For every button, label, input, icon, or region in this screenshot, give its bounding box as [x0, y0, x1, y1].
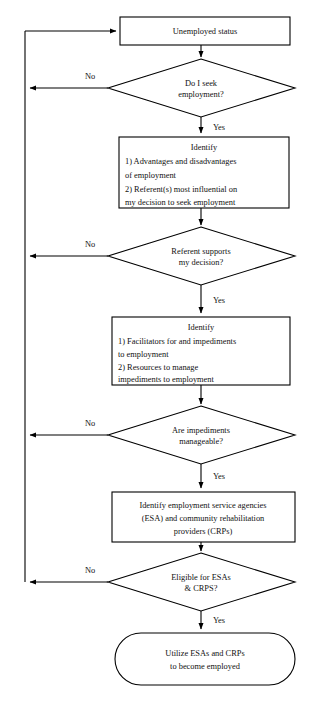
edge-label-no-4: No: [85, 566, 95, 575]
flowchart-page: Unemployed status Do I seek employment? …: [0, 0, 317, 704]
seek-employment-label-line2: employment?: [178, 90, 224, 99]
node-identify-facilitators-resources: Identify 1) Facilitators for and impedim…: [112, 317, 290, 385]
node-eligible-for-esas-crps: Eligible for ESAs & CRPS?: [108, 553, 295, 611]
node-seek-employment-decision: Do I seek employment?: [108, 59, 295, 117]
edge-label-yes-4: Yes: [213, 616, 225, 625]
utilize-esas-crps-stadium: [115, 633, 295, 685]
eligible-for-esas-label-line1: Eligible for ESAs: [171, 573, 231, 582]
node-unemployed-status: Unemployed status: [120, 17, 290, 45]
identify-advantages-line1: 1) Advantages and disadvantages: [125, 157, 236, 166]
impediments-manageable-diamond: [108, 406, 295, 464]
flowchart-canvas: Unemployed status Do I seek employment? …: [0, 0, 317, 704]
edge-label-yes-2: Yes: [213, 296, 225, 305]
eligible-for-esas-diamond: [108, 553, 295, 611]
identify-facilitators-line2: to employment: [118, 350, 169, 359]
identify-facilitators-line4: impediments to employment: [118, 375, 215, 384]
identify-facilitators-heading: Identify: [188, 323, 215, 332]
identify-advantages-line3: 2) Referent(s) most influential on: [125, 185, 238, 194]
edge-label-no-3: No: [85, 419, 95, 428]
node-identify-esa-crp: Identify employment service agencies (ES…: [112, 492, 295, 542]
identify-advantages-line2: of employment: [125, 171, 177, 180]
node-identify-advantages-referents: Identify 1) Advantages and disadvantages…: [119, 137, 289, 208]
impediments-manageable-label-line2: manageable?: [179, 437, 223, 446]
impediments-manageable-label-line1: Are impediments: [172, 426, 230, 435]
utilize-esas-crps-line2: to become employed: [170, 662, 241, 671]
unemployed-status-label: Unemployed status: [173, 27, 237, 36]
referent-supports-label-line2: my decision?: [179, 258, 224, 267]
edge-label-yes-1: Yes: [213, 123, 225, 132]
identify-esa-crp-line2: (ESA) and community rehabilitation: [142, 514, 265, 523]
identify-esa-crp-line1: Identify employment service agencies: [139, 501, 266, 510]
seek-employment-label-line1: Do I seek: [185, 79, 218, 88]
identify-facilitators-line1: 1) Facilitators for and impediments: [118, 337, 236, 346]
utilize-esas-crps-line1: Utilize ESAs and CRPs: [165, 649, 244, 658]
identify-esa-crp-line3: providers (CRPs): [174, 527, 233, 536]
edge-label-no-1: No: [85, 72, 95, 81]
edge-label-yes-3: Yes: [213, 472, 225, 481]
identify-facilitators-line3: 2) Resources to manage: [118, 363, 199, 372]
node-impediments-manageable: Are impediments manageable?: [108, 406, 295, 464]
edge-label-no-2: No: [85, 240, 95, 249]
node-utilize-esas-crps: Utilize ESAs and CRPs to become employed: [115, 633, 295, 685]
identify-advantages-heading: Identify: [191, 143, 218, 152]
referent-supports-label-line1: Referent supports: [171, 247, 230, 256]
referent-supports-diamond: [108, 227, 295, 285]
eligible-for-esas-label-line2: & CRPS?: [185, 584, 218, 593]
feedback-loop-group: [25, 31, 116, 582]
node-referent-supports-decision: Referent supports my decision?: [108, 227, 295, 285]
identify-advantages-line4: my decision to seek employment: [125, 198, 236, 207]
seek-employment-diamond: [108, 59, 295, 117]
